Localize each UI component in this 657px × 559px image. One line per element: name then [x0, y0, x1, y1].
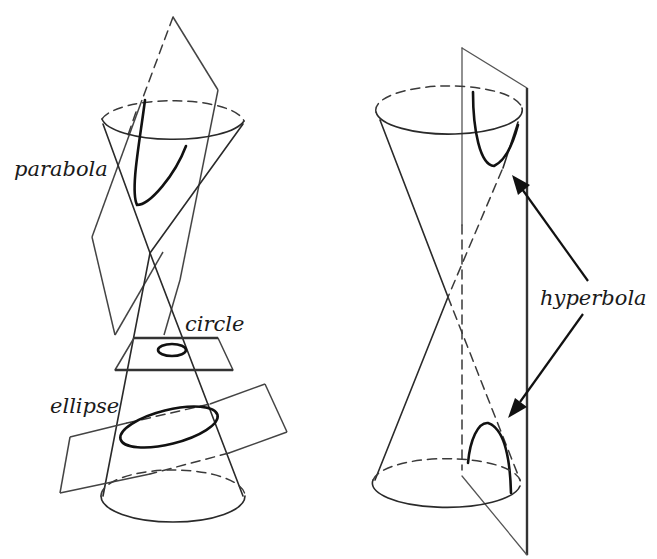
right-double-cone-figure: hyperbola	[372, 48, 646, 555]
parabola-label: parabola	[14, 157, 108, 181]
upper-cone-right-side	[150, 124, 243, 253]
lower-cone-right-side	[448, 297, 520, 480]
lower-hyperbola-branch	[468, 423, 511, 493]
hyperbola-upper-arrow	[512, 175, 588, 281]
ellipse-label: ellipse	[50, 394, 119, 418]
upper-cone-rim	[376, 86, 523, 134]
upper-cone-left-side	[380, 120, 448, 297]
ellipse-curve	[116, 398, 221, 455]
upper-cone-rim	[102, 101, 244, 140]
circle-curve	[158, 344, 186, 356]
lower-cone-base	[101, 470, 245, 522]
hyperbola-label: hyperbola	[540, 286, 647, 310]
hyperbola-lower-arrow	[508, 314, 583, 418]
parabola-plane	[92, 17, 218, 335]
lower-cone-base	[372, 459, 520, 508]
lower-cone-left-side	[103, 253, 150, 496]
upper-cone-right-side	[448, 170, 502, 297]
lower-cone-left-side	[375, 297, 448, 480]
circle-label: circle	[185, 312, 244, 336]
parabola-curve	[135, 100, 186, 205]
conic-sections-diagram: parabola circle ellipse	[0, 0, 657, 559]
lower-cone-right-side	[150, 253, 243, 496]
left-double-cone-figure: parabola circle ellipse	[14, 17, 287, 522]
